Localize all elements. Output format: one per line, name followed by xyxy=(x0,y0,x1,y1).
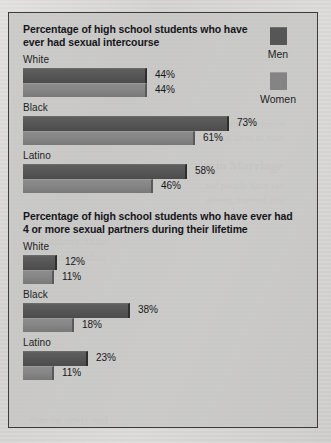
chart-1-group-latino: Latino 58% 46% xyxy=(23,150,309,193)
bar-men[interactable] xyxy=(23,255,57,270)
bar-value: 11% xyxy=(62,367,81,378)
bar-value: 44% xyxy=(155,69,175,80)
bar-row-men: 38% xyxy=(23,303,309,318)
bar-row-women: 11% xyxy=(23,366,309,380)
chart-2-group-latino: Latino 23% 11% xyxy=(23,337,309,380)
chart-2-title: Percentage of high school students who h… xyxy=(23,210,301,235)
bar-row-men: 12% xyxy=(23,255,309,270)
bar-women[interactable] xyxy=(23,270,54,284)
bar-men[interactable] xyxy=(23,351,88,366)
bar-women[interactable] xyxy=(23,318,74,332)
bar-women[interactable] xyxy=(23,179,153,193)
legend-item-women[interactable]: Women xyxy=(247,72,309,105)
bar-row-men: 73% xyxy=(23,116,309,131)
legend-swatch-women-icon xyxy=(270,72,287,90)
bar-row-women: 61% xyxy=(23,131,309,145)
group-label: Latino xyxy=(23,150,309,162)
chart-2: Percentage of high school students who h… xyxy=(23,210,309,380)
bar-value: 73% xyxy=(237,117,257,128)
group-label: White xyxy=(23,241,309,253)
bar-value: 58% xyxy=(195,165,215,176)
bar-men[interactable] xyxy=(23,164,187,179)
bar-women[interactable] xyxy=(23,83,147,97)
bar-value: 38% xyxy=(138,304,158,315)
bar-women[interactable] xyxy=(23,131,195,145)
bar-row-women: 46% xyxy=(23,179,309,193)
chart-legend: Men Women xyxy=(247,27,309,117)
group-label: Black xyxy=(23,289,309,301)
bar-value: 18% xyxy=(82,319,102,330)
bar-value: 46% xyxy=(161,180,181,191)
group-label: Latino xyxy=(23,337,309,349)
bar-value: 23% xyxy=(96,352,116,363)
bar-row-women: 11% xyxy=(23,270,309,284)
legend-item-men[interactable]: Men xyxy=(247,27,309,60)
bar-value: 61% xyxy=(203,132,223,143)
bar-row-women: 18% xyxy=(23,318,309,332)
bar-value: 11% xyxy=(62,271,81,282)
bar-men[interactable] xyxy=(23,303,130,318)
bar-row-men: 58% xyxy=(23,164,309,179)
legend-label: Women xyxy=(247,93,309,105)
chart-2-group-black: Black 38% 18% xyxy=(23,289,309,332)
chart-2-group-white: White 12% 11% xyxy=(23,241,309,284)
bar-men[interactable] xyxy=(23,68,147,83)
bar-row-men: 23% xyxy=(23,351,309,366)
bar-women[interactable] xyxy=(23,366,54,380)
chart-1-title: Percentage of high school students who h… xyxy=(23,23,255,48)
bar-value: 44% xyxy=(155,84,175,95)
legend-swatch-men-icon xyxy=(270,27,287,45)
bar-value: 12% xyxy=(65,256,85,267)
figure-panel: Percentage of high school students who h… xyxy=(8,12,318,428)
bar-men[interactable] xyxy=(23,116,229,131)
legend-label: Men xyxy=(247,48,309,60)
